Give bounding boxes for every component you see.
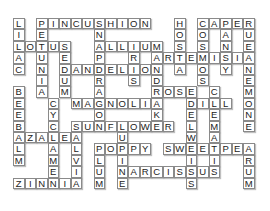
crossword-cell: E (232, 143, 244, 154)
crossword-cell: E (117, 178, 129, 189)
crossword-grid: LPINCUSHIONHCAPERIENOOAULOTUSALLIUMSSNEA… (0, 0, 270, 211)
crossword-cell: U (48, 41, 60, 52)
crossword-cell: L (209, 98, 221, 109)
crossword-cell: E (59, 132, 71, 143)
crossword-cell: O (140, 64, 152, 75)
crossword-cell: R (163, 121, 175, 132)
crossword-cell: T (36, 41, 48, 52)
crossword-cell: P (128, 143, 140, 154)
crossword-cell: C (13, 64, 25, 75)
crossword-cell: A (71, 178, 83, 189)
crossword-cell: A (36, 132, 48, 143)
crossword-cell: I (197, 98, 209, 109)
crossword-cell: C (197, 18, 209, 29)
crossword-cell: E (151, 121, 163, 132)
crossword-cell: S (174, 166, 186, 177)
crossword-cell: O (197, 29, 209, 40)
crossword-cell: I (13, 29, 25, 40)
crossword-cell: A (13, 52, 25, 63)
crossword-cell: P (220, 143, 232, 154)
crossword-cell: R (140, 166, 152, 177)
crossword-cell: L (13, 143, 25, 154)
crossword-cell: T (174, 52, 186, 63)
crossword-cell: U (243, 29, 255, 40)
crossword-cell: E (186, 109, 198, 120)
crossword-cell: L (13, 41, 25, 52)
crossword-cell: O (163, 86, 175, 97)
crossword-cell: I (186, 155, 198, 166)
crossword-cell: E (48, 166, 60, 177)
crossword-cell: S (94, 18, 106, 29)
crossword-cell: N (94, 29, 106, 40)
crossword-cell: L (48, 132, 60, 143)
crossword-cell: Y (220, 64, 232, 75)
crossword-cell: B (13, 86, 25, 97)
crossword-cell: A (243, 52, 255, 63)
crossword-cell: A (209, 132, 221, 143)
crossword-cell: D (59, 64, 71, 75)
crossword-cell: N (36, 64, 48, 75)
crossword-cell: I (209, 52, 221, 63)
crossword-cell: A (71, 64, 83, 75)
crossword-cell: S (186, 178, 198, 189)
crossword-cell: M (13, 155, 25, 166)
crossword-cell: U (82, 121, 94, 132)
crossword-cell: F (105, 121, 117, 132)
crossword-cell: D (151, 75, 163, 86)
crossword-cell: U (82, 18, 94, 29)
crossword-cell: A (220, 29, 232, 40)
crossword-cell: K (151, 109, 163, 120)
crossword-cell: L (117, 41, 129, 52)
crossword-cell: A (71, 132, 83, 143)
crossword-cell: U (140, 41, 152, 52)
crossword-cell: N (243, 64, 255, 75)
crossword-cell: S (174, 86, 186, 97)
crossword-cell: N (140, 18, 152, 29)
crossword-cell: M (48, 155, 60, 166)
crossword-cell: M (243, 86, 255, 97)
crossword-cell: S (209, 166, 221, 177)
crossword-cell: S (186, 166, 198, 177)
crossword-cell: L (117, 64, 129, 75)
crossword-cell: P (94, 52, 106, 63)
crossword-cell: S (163, 143, 175, 154)
crossword-cell: D (186, 98, 198, 109)
crossword-cell: A (243, 143, 255, 154)
crossword-cell: R (163, 52, 175, 63)
crossword-cell: O (117, 98, 129, 109)
crossword-cell: M (197, 52, 209, 63)
crossword-cell: N (220, 41, 232, 52)
crossword-cell: E (186, 143, 198, 154)
crossword-cell: I (48, 18, 60, 29)
crossword-cell: R (243, 18, 255, 29)
crossword-cell: O (243, 98, 255, 109)
crossword-cell: V (71, 155, 83, 166)
crossword-cell: S (71, 121, 83, 132)
crossword-cell: M (151, 41, 163, 52)
crossword-cell: O (105, 143, 117, 154)
crossword-cell: O (25, 41, 37, 52)
crossword-cell: U (94, 166, 106, 177)
crossword-cell: H (105, 18, 117, 29)
crossword-cell: S (128, 75, 140, 86)
crossword-cell: L (105, 41, 117, 52)
crossword-cell: C (71, 18, 83, 29)
crossword-cell: I (128, 41, 140, 52)
crossword-cell: I (163, 166, 175, 177)
crossword-cell: R (243, 155, 255, 166)
crossword-cell: Z (25, 132, 37, 143)
crossword-cell: I (128, 64, 140, 75)
crossword-cell: P (94, 143, 106, 154)
crossword-cell: A (48, 143, 60, 154)
crossword-cell: N (82, 64, 94, 75)
crossword-cell: Y (140, 143, 152, 154)
crossword-cell: A (94, 41, 106, 52)
crossword-cell: P (117, 143, 129, 154)
crossword-cell: W (140, 121, 152, 132)
crossword-cell: O (197, 64, 209, 75)
crossword-cell: L (186, 121, 198, 132)
crossword-cell: U (243, 166, 255, 177)
crossword-cell: R (128, 52, 140, 63)
crossword-cell: I (232, 52, 244, 63)
crossword-cell: Y (48, 109, 60, 120)
